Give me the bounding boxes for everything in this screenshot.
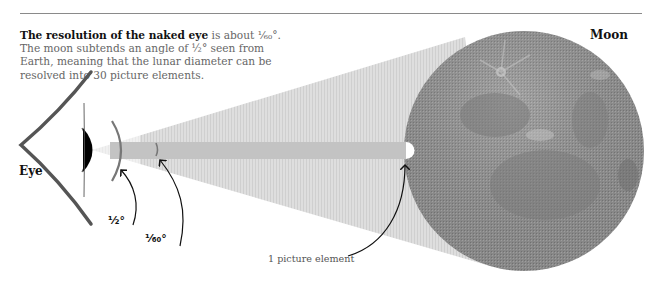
moon-disc xyxy=(404,31,644,271)
sixtieth-degree-label: ¹⁄₆₀° xyxy=(145,232,167,245)
moon-label: Moon xyxy=(590,28,628,42)
picture-element-label: 1 picture element xyxy=(268,253,354,264)
diagram-canvas xyxy=(0,0,658,284)
half-degree-label: ½° xyxy=(108,214,125,227)
eye-label: Eye xyxy=(19,164,43,178)
eye-icon xyxy=(21,72,93,224)
resolution-beam xyxy=(110,142,406,159)
